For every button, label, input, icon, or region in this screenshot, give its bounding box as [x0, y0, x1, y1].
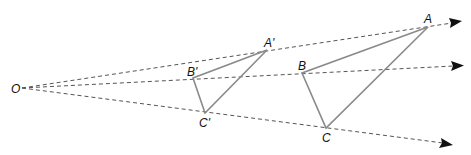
- ray-OB: [22, 66, 454, 88]
- dilation-diagram: O A' B' C' A B C: [0, 0, 471, 155]
- center-label: O: [11, 82, 20, 96]
- vertex-label-c: C: [322, 131, 331, 145]
- triangle-original: [302, 27, 428, 128]
- ray-OA: [22, 23, 452, 88]
- vertex-label-b: B: [298, 59, 306, 73]
- vertex-label-a-prime: A': [263, 36, 275, 50]
- vertex-label-a: A: [423, 12, 432, 26]
- arrowhead-icon: [451, 61, 464, 71]
- arrowhead-icon: [449, 18, 462, 28]
- ray-OC: [22, 88, 443, 143]
- vertex-label-c-prime: C': [199, 116, 211, 130]
- vertex-label-b-prime: B': [187, 65, 198, 79]
- triangle-image: [193, 50, 267, 113]
